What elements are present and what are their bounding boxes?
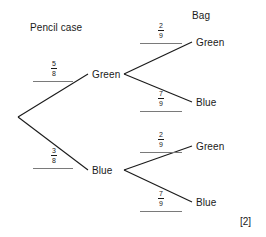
- probability-label-blue-blue: 7 9: [155, 190, 167, 207]
- probability-tree-diagram: Pencil case Bag 5 8 3 8 Green Blue 2 9 7…: [0, 0, 266, 237]
- fraction-numerator: 2: [155, 131, 167, 139]
- tree-branch-lines: [0, 0, 266, 237]
- fraction-denominator: 8: [48, 70, 60, 78]
- stage-heading-bag: Bag: [192, 10, 210, 21]
- fraction-denominator: 9: [155, 200, 167, 208]
- probability-underline-green-blue: [140, 111, 182, 112]
- fraction-denominator: 8: [48, 157, 60, 165]
- fraction-numerator: 7: [155, 190, 167, 198]
- branch-line-green-green: [124, 42, 192, 74]
- fraction-numerator: 5: [48, 60, 60, 68]
- node-label-stage1-green: Green: [92, 69, 120, 80]
- probability-label-green-blue: 7 9: [155, 90, 167, 107]
- leaf-label-green-green: Green: [196, 37, 224, 48]
- probability-underline-root-green: [33, 81, 73, 82]
- probability-underline-blue-green: [140, 152, 182, 153]
- fraction-denominator: 9: [155, 32, 167, 40]
- probability-label-blue-green: 2 9: [155, 131, 167, 148]
- probability-label-root-green: 5 8: [48, 60, 60, 77]
- branch-line-blue-green: [124, 146, 192, 170]
- fraction-numerator: 3: [48, 147, 60, 155]
- leaf-label-blue-green: Green: [196, 141, 224, 152]
- probability-underline-root-blue: [33, 168, 73, 169]
- fraction-denominator: 9: [155, 141, 167, 149]
- node-label-stage1-blue: Blue: [92, 165, 112, 176]
- probability-label-root-blue: 3 8: [48, 147, 60, 164]
- marks-indicator: [2]: [240, 216, 251, 227]
- leaf-label-green-blue: Blue: [196, 97, 216, 108]
- probability-underline-green-green: [140, 43, 182, 44]
- stage-heading-pencil-case: Pencil case: [30, 22, 82, 33]
- fraction-numerator: 2: [155, 22, 167, 30]
- probability-underline-blue-blue: [140, 211, 182, 212]
- leaf-label-blue-blue: Blue: [196, 197, 216, 208]
- fraction-numerator: 7: [155, 90, 167, 98]
- probability-label-green-green: 2 9: [155, 22, 167, 39]
- fraction-denominator: 9: [155, 100, 167, 108]
